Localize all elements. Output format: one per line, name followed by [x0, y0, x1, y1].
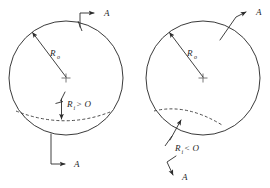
inner-radius-tick — [165, 136, 172, 146]
axis-leader-top — [220, 12, 246, 40]
center-cross-icon — [62, 74, 71, 83]
outer-radius-subscript: o — [194, 54, 197, 60]
axis-label-a-bottom: A — [181, 172, 188, 182]
right-panel: R o A R i < O A — [146, 7, 262, 182]
axis-label-a-top: A — [255, 7, 262, 17]
axis-label-a-bottom: A — [73, 159, 80, 169]
inner-radius-relation: > — [77, 99, 82, 109]
inner-radius-subscript: i — [182, 149, 184, 155]
axis-label-a-top: A — [103, 8, 110, 18]
center-cross-icon — [199, 74, 208, 83]
inner-radius-subscript: i — [74, 105, 76, 111]
inner-radius-value: O — [193, 143, 200, 153]
inner-radius-relation: < — [185, 143, 190, 153]
outer-radius-label: R o — [49, 48, 60, 60]
inner-surface-dashed-arc — [16, 111, 110, 121]
inner-radius-value: O — [85, 99, 92, 109]
axis-leader-bottom — [51, 134, 65, 164]
axis-leader-bottom — [167, 156, 176, 175]
inner-radius-symbol: R — [66, 99, 73, 109]
sphere-radius-diagram: R o R i > O A A — [0, 0, 270, 188]
inner-surface-dashed-arc — [154, 109, 222, 125]
outer-radius-subscript: o — [57, 54, 60, 60]
left-panel: R o R i > O A A — [9, 8, 123, 169]
inner-radius-label: R i > O — [66, 99, 92, 111]
inner-radius-symbol: R — [174, 143, 181, 153]
outer-radius-symbol: R — [186, 48, 193, 58]
outer-radius-label: R o — [186, 48, 197, 60]
inner-radius-label: R i < O — [174, 143, 200, 155]
figure-root: R o R i > O A A — [0, 0, 270, 188]
outer-radius-symbol: R — [49, 48, 56, 58]
